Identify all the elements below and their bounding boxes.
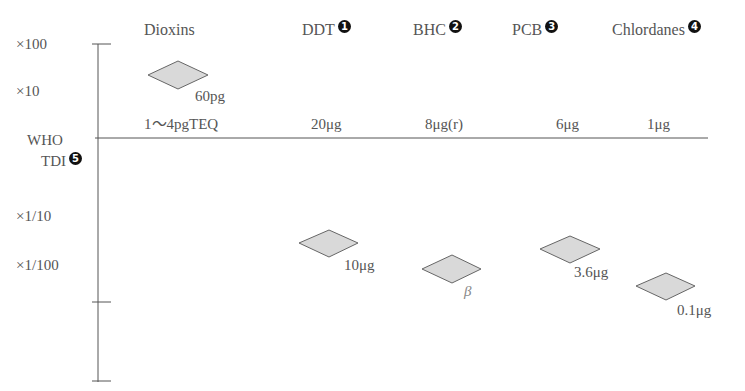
column-header-dioxins: Dioxins: [144, 22, 195, 38]
y-label-x10: ×10: [16, 84, 39, 99]
diagram-graphics: [0, 0, 745, 391]
y-label-x1-10: ×1/10: [16, 209, 51, 224]
diamond-marker-ddt: [299, 230, 358, 257]
column-header-ddt: DDT1: [302, 22, 351, 38]
intake-label-chlordanes: 0.1μg: [677, 303, 711, 318]
diamond-marker-bhc: [422, 255, 481, 283]
y-label-x100: ×100: [16, 37, 47, 52]
column-name: Dioxins: [144, 21, 195, 38]
diamond-marker-chlordanes: [636, 273, 695, 300]
intake-label-bhc: β: [464, 284, 471, 299]
tdi-value-pcb: 6μg: [556, 117, 579, 132]
intake-label-pcb: 3.6μg: [574, 265, 608, 280]
footnote-badge-4: 4: [688, 20, 701, 33]
column-name: Chlordanes: [612, 21, 685, 38]
tdi-value-dioxins: 1～4pgTEQ: [144, 117, 218, 132]
column-header-chlordanes: Chlordanes4: [612, 22, 701, 38]
column-name: PCB: [512, 21, 542, 38]
diamond-marker-pcb: [540, 236, 600, 263]
y-label-x1-100: ×1/100: [16, 258, 59, 273]
footnote-badge-3: 3: [545, 20, 558, 33]
intake-label-dioxins: 60pg: [195, 89, 225, 104]
intake-label-ddt: 10μg: [344, 258, 375, 273]
diamond-marker-dioxins: [148, 61, 208, 89]
footnote-badge-2: 2: [449, 20, 462, 33]
tdi-value-bhc: 8μg(r): [425, 117, 463, 132]
tdi-label-text: TDI: [41, 153, 66, 169]
footnote-badge-1: 1: [338, 20, 351, 33]
tdi-value-chlordanes: 1μg: [647, 117, 670, 132]
who-label: WHO: [27, 133, 63, 148]
tdi-value-ddt: 20μg: [311, 117, 342, 132]
footnote-badge-5: 5: [69, 152, 82, 165]
column-header-pcb: PCB3: [512, 22, 558, 38]
column-name: DDT: [302, 21, 335, 38]
column-header-bhc: BHC2: [413, 22, 462, 38]
column-name: BHC: [413, 21, 446, 38]
tdi-label: TDI5: [41, 154, 82, 169]
